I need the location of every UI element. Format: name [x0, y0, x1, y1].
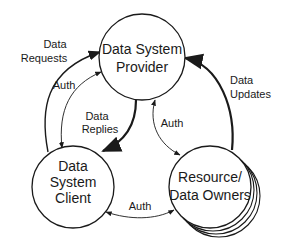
node-provider: Data System Provider: [99, 14, 185, 100]
svg-text:Requests: Requests: [21, 52, 68, 64]
data-replies-label-2: Replies: [82, 123, 119, 135]
svg-text:Provider: Provider: [116, 59, 168, 75]
edge-data-requests: [45, 52, 100, 152]
auth-client-provider-label: Auth: [53, 79, 76, 91]
svg-text:Resource/: Resource/: [178, 169, 242, 185]
svg-text:Data: Data: [58, 158, 88, 174]
svg-text:System: System: [50, 174, 97, 190]
resource-label-line-2: Data Owners: [169, 187, 251, 203]
node-client: Data System Client: [32, 146, 114, 228]
svg-text:Data System: Data System: [102, 41, 182, 57]
data-system-diagram: Data System Provider Data System Client …: [0, 0, 287, 249]
provider-label-line-1: Data System: [102, 41, 182, 57]
svg-text:Data: Data: [230, 74, 254, 86]
client-label-line-2: System: [50, 174, 97, 190]
svg-text:Replies: Replies: [82, 123, 119, 135]
svg-text:Client: Client: [55, 190, 91, 206]
svg-text:Auth: Auth: [53, 79, 76, 91]
node-resource: Resource/ Data Owners: [169, 146, 251, 228]
data-requests-label-2: Requests: [21, 52, 68, 64]
resource-label-line-1: Resource/: [178, 169, 242, 185]
svg-text:Auth: Auth: [161, 117, 184, 129]
auth-provider-resource-label: Auth: [161, 117, 184, 129]
svg-text:Data Owners: Data Owners: [169, 187, 251, 203]
auth-client-resource-label: Auth: [129, 200, 152, 212]
data-replies-label-1: Data: [85, 110, 109, 122]
data-updates-label-2: Updates: [230, 88, 271, 100]
client-label-line-3: Client: [55, 190, 91, 206]
data-updates-label-1: Data: [230, 74, 254, 86]
svg-text:Data: Data: [43, 38, 67, 50]
edge-data-updates: [185, 58, 233, 150]
data-requests-label-1: Data: [43, 38, 67, 50]
svg-text:Updates: Updates: [230, 88, 271, 100]
svg-text:Data: Data: [85, 110, 109, 122]
provider-label-line-2: Provider: [116, 59, 168, 75]
client-label-line-1: Data: [58, 158, 88, 174]
svg-text:Auth: Auth: [129, 200, 152, 212]
